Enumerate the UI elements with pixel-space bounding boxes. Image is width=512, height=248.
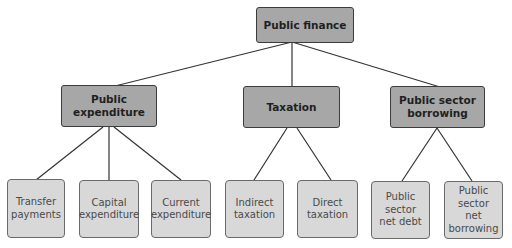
node-public-expenditure: Public expenditure bbox=[61, 85, 157, 127]
node-indirect-taxation: Indirect taxation bbox=[225, 180, 284, 238]
node-label: Public expenditure bbox=[73, 93, 145, 119]
node-label: Current expenditure bbox=[151, 197, 211, 222]
connector-taxation-direct bbox=[297, 128, 331, 180]
node-public-finance: Public finance bbox=[256, 7, 354, 43]
node-label: Direct taxation bbox=[307, 197, 348, 222]
node-current-expenditure: Current expenditure bbox=[151, 180, 211, 238]
node-capital-expenditure: Capital expenditure bbox=[79, 180, 139, 238]
node-public-sector-net-borrowing: Public sector net borrowing bbox=[444, 181, 503, 239]
node-taxation: Taxation bbox=[243, 86, 340, 128]
node-label: Public finance bbox=[264, 19, 347, 32]
node-label: Public sector net borrowing bbox=[448, 185, 498, 235]
node-label: Taxation bbox=[266, 101, 316, 114]
node-label: Transfer payments bbox=[11, 196, 61, 221]
node-label: Public sector borrowing bbox=[399, 94, 476, 120]
node-transfer-payments: Transfer payments bbox=[7, 179, 65, 238]
node-label: Public sector net debt bbox=[379, 191, 421, 229]
connector-borrowing-netdebt bbox=[402, 128, 437, 181]
node-direct-taxation: Direct taxation bbox=[297, 180, 358, 238]
connector-expenditure-current bbox=[114, 127, 181, 180]
node-public-sector-borrowing: Public sector borrowing bbox=[390, 86, 485, 128]
connector-root-borrowing bbox=[292, 42, 440, 87]
connector-borrowing-netborrowing bbox=[437, 128, 472, 181]
connector-taxation-indirect bbox=[254, 128, 287, 180]
node-label: Indirect taxation bbox=[234, 197, 275, 222]
node-public-sector-net-debt: Public sector net debt bbox=[371, 181, 430, 239]
connector-root-expenditure bbox=[115, 42, 292, 86]
connector-expenditure-transfer bbox=[36, 127, 103, 180]
node-label: Capital expenditure bbox=[79, 197, 139, 222]
